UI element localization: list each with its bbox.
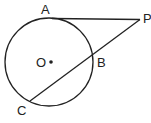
center-point — [49, 60, 53, 64]
label-a: A — [41, 2, 50, 17]
label-p: P — [143, 11, 151, 26]
label-o: O — [36, 55, 46, 70]
label-b: B — [97, 55, 106, 70]
circle-o — [5, 18, 93, 106]
tangent-line-ap — [52, 19, 140, 20]
label-c: C — [17, 103, 26, 118]
secant-line-pc — [30, 20, 140, 102]
geometry-diagram: A P O B C — [0, 0, 151, 123]
